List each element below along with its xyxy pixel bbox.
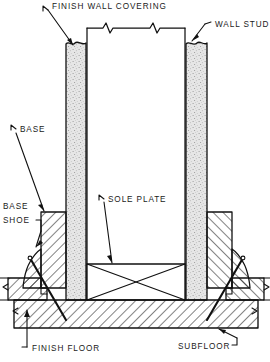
diagram-canvas: FINISH WALL COVERING WALL STUD BASE BASE…	[0, 0, 270, 362]
label-sole-plate: SOLE PLATE	[108, 195, 166, 204]
sole-plate	[87, 264, 185, 300]
label-finish-wall-covering: FINISH WALL COVERING	[52, 2, 167, 11]
label-wall-stud: WALL STUD	[215, 20, 269, 29]
label-base: BASE	[20, 125, 45, 134]
finish-wall-covering-left	[66, 42, 86, 300]
finish-floor-left	[0, 278, 47, 300]
label-finish-floor: FINISH FLOOR	[32, 344, 100, 353]
leader-finish-wall-covering	[43, 6, 73, 45]
base-left	[41, 212, 66, 288]
wall-top-break-line	[87, 23, 185, 300]
base-right	[207, 212, 232, 288]
construction-section-drawing: FINISH WALL COVERING WALL STUD BASE BASE…	[0, 0, 270, 362]
finish-floor-right	[226, 278, 270, 300]
label-base-shoe-line2: SHOE	[3, 216, 30, 225]
label-subfloor: SUBFLOOR	[178, 342, 230, 351]
leader-base	[11, 125, 44, 211]
finish-wall-covering-right	[186, 42, 207, 300]
label-base-shoe-line1: BASE	[3, 202, 28, 211]
subfloor	[14, 300, 258, 328]
leader-wall-stud	[192, 22, 211, 41]
leader-sole-plate	[99, 195, 112, 263]
